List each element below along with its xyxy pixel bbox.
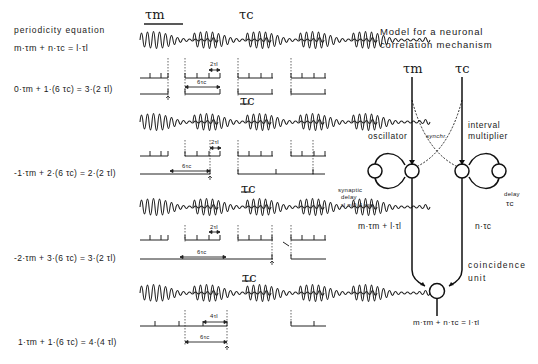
synaptic-delay-line2: delay bbox=[341, 194, 357, 201]
synaptic-delay-line1: synaptic bbox=[338, 187, 362, 194]
synchr-label: synchr. bbox=[426, 133, 447, 140]
row1-large-interval: 6τc bbox=[197, 79, 207, 86]
tau-c-label-row4: τc bbox=[242, 270, 256, 285]
interval-label-line1: interval bbox=[468, 120, 500, 131]
coincidence-label-line2: unit bbox=[468, 273, 487, 284]
output-equation: m·τm + n·τc = l·τl bbox=[413, 318, 479, 327]
oscillator-label: oscillator bbox=[368, 131, 408, 142]
waveform-diagram bbox=[0, 0, 538, 364]
row3-large-interval: 6τc bbox=[197, 249, 207, 256]
row3-small-interval: 2τl bbox=[210, 224, 218, 231]
synaptic-delay-value: τl = 0.4 ms bbox=[341, 202, 373, 209]
row4-small-interval: 4τl bbox=[210, 313, 218, 320]
coincidence-label-line1: coincidence bbox=[468, 260, 526, 271]
delay-tau: τc bbox=[506, 200, 514, 207]
row1-small-interval: 2τl bbox=[210, 61, 218, 68]
model-title-line2: correlation mechanism bbox=[380, 39, 492, 51]
row2-small-interval: 2τl bbox=[211, 139, 219, 146]
tau-c-label-row2: τc bbox=[240, 93, 254, 108]
input-tau-m: τm bbox=[403, 61, 423, 76]
input-tau-c: τc bbox=[455, 61, 469, 76]
right-branch-equation: n·τc bbox=[475, 221, 491, 231]
model-title-line1: Model for a neuronal bbox=[380, 26, 483, 38]
left-branch-equation: m·τm + l·τl bbox=[358, 221, 401, 231]
tau-m-label: τm bbox=[145, 7, 165, 22]
tau-c-label: τc bbox=[239, 7, 253, 22]
interval-label-line2: multiplier bbox=[468, 131, 508, 142]
row4-large-interval: 6τc bbox=[200, 334, 210, 341]
tau-c-label-row3: τc bbox=[241, 181, 255, 196]
row2-large-interval: 6τc bbox=[182, 163, 192, 170]
delay-label: delay bbox=[504, 191, 520, 198]
